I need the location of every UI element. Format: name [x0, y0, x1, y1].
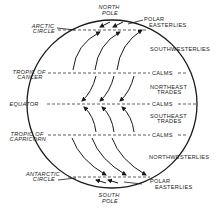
northeast-trade-arrow: [100, 76, 114, 101]
calms-label-2: CALMS: [152, 101, 173, 107]
polar-easterly-arrow: [96, 180, 106, 183]
equator-label: EQUATOR: [9, 101, 38, 107]
polar-easterly-arrow: [108, 180, 118, 183]
south-pole-label: SOUTH POLE: [99, 192, 122, 204]
northwesterly-arrow: [72, 138, 106, 175]
southwesterlies-label: SOUTHWESTERLIES: [150, 46, 210, 52]
northwesterlies-label: NORTHWESTERLIES: [149, 154, 209, 160]
southwesterly-arrow: [95, 32, 120, 70]
southwesterly-arrow: [117, 30, 142, 70]
polar-easterly-arrow: [100, 22, 110, 27]
southeast-trade-arrow: [84, 107, 96, 132]
southeast-trades-label: SOUTHEAST TRADES: [150, 113, 189, 124]
tropic-of-cancer-label: TROPIC OF CANCER: [13, 69, 48, 80]
tropic-of-capricorn-label: TROPIC OF CAPRICORN: [10, 131, 47, 142]
arctic-circle-label: ARCTIC CIRCLE: [31, 23, 56, 34]
calms-label-1: CALMS: [152, 70, 173, 76]
northeast-trades-label: NORTHEAST TRADES: [150, 84, 189, 95]
polar-easterly-arrow: [113, 22, 123, 27]
polar-easterlies-south-label: POLAR EASTERLIES: [150, 178, 193, 190]
polar-easterlies-north-label: POLAR EASTERLIES: [144, 16, 187, 28]
north-pole-label: NORTH POLE: [98, 4, 121, 16]
antarctic-circle-label: ANTARCTIC CIRCLE: [25, 171, 62, 182]
calms-label-3: CALMS: [152, 132, 173, 138]
northeast-trade-arrow: [82, 76, 96, 101]
southeast-trade-arrow: [122, 107, 134, 132]
northeast-trade-arrow: [120, 76, 134, 101]
wind-belts-diagram: NORTH POLE SOUTH POLE ARCTIC CIRCLE TROP…: [0, 0, 220, 208]
southeast-trade-arrow: [102, 107, 114, 132]
